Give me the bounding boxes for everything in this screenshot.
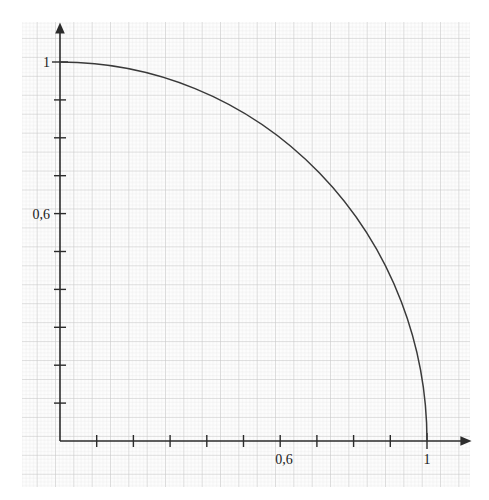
graph-paper-grid (22, 22, 470, 487)
y-axis-label-zero-six: 0,6 (33, 207, 51, 222)
quarter-circle-plot: 1 0,6 0,6 1 (0, 0, 489, 500)
y-axis-label-one: 1 (43, 55, 50, 70)
x-axis-label-zero-six: 0,6 (275, 452, 293, 467)
graph-page: 1 0,6 0,6 1 (0, 0, 489, 500)
x-axis-label-one: 1 (424, 452, 431, 467)
